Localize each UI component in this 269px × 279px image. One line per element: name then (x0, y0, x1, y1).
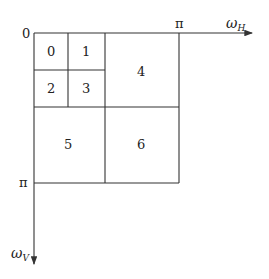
subband-6: 6 (137, 137, 145, 152)
subband-4: 4 (137, 64, 145, 79)
subband-3: 3 (82, 81, 90, 96)
subband-5: 5 (64, 137, 72, 152)
horizontal-pi-label: π (175, 16, 184, 31)
subband-2: 2 (47, 81, 55, 96)
vertical-axis-label: ωV (11, 245, 30, 263)
subband-diagram: 0 π π ωH ωV 0 1 2 3 4 5 6 (0, 0, 269, 279)
horizontal-axis-label: ωH (226, 15, 245, 33)
subband-1: 1 (82, 44, 90, 59)
origin-label: 0 (22, 26, 30, 41)
subband-0: 0 (47, 44, 55, 59)
vertical-pi-label: π (19, 175, 28, 190)
